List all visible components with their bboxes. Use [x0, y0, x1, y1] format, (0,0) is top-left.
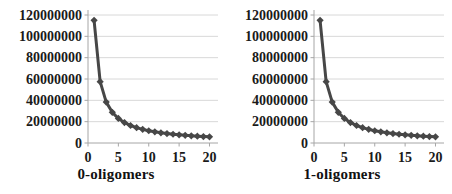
svg-text:100000000: 100000000 — [245, 29, 308, 44]
svg-text:20000000: 20000000 — [252, 114, 308, 129]
svg-text:0: 0 — [311, 150, 318, 165]
svg-text:80000000: 80000000 — [252, 50, 308, 65]
svg-text:20000000: 20000000 — [26, 114, 82, 129]
svg-text:10: 10 — [142, 150, 156, 165]
svg-text:20: 20 — [202, 150, 216, 165]
svg-text:0: 0 — [301, 136, 308, 151]
chart-0-axis-title: 0-oligomers — [10, 166, 222, 183]
chart-0-oligomers: 0200000004000000060000000800000001000000… — [0, 0, 226, 194]
svg-text:120000000: 120000000 — [19, 8, 82, 23]
svg-text:60000000: 60000000 — [26, 72, 82, 87]
svg-text:40000000: 40000000 — [26, 93, 82, 108]
svg-text:60000000: 60000000 — [252, 72, 308, 87]
svg-text:10: 10 — [368, 150, 382, 165]
svg-text:120000000: 120000000 — [245, 8, 308, 23]
chart-1-plot-area: 0200000004000000060000000800000001000000… — [226, 0, 452, 168]
svg-text:80000000: 80000000 — [26, 50, 82, 65]
figure: 0200000004000000060000000800000001000000… — [0, 0, 452, 194]
chart-0-plot-area: 0200000004000000060000000800000001000000… — [0, 0, 226, 168]
svg-text:15: 15 — [172, 150, 186, 165]
svg-text:5: 5 — [115, 150, 122, 165]
svg-text:20: 20 — [428, 150, 442, 165]
chart-1-oligomers: 0200000004000000060000000800000001000000… — [226, 0, 452, 194]
svg-text:15: 15 — [398, 150, 412, 165]
svg-text:0: 0 — [85, 150, 92, 165]
svg-text:100000000: 100000000 — [19, 29, 82, 44]
svg-text:0: 0 — [75, 136, 82, 151]
svg-text:40000000: 40000000 — [252, 93, 308, 108]
svg-text:5: 5 — [341, 150, 348, 165]
chart-1-axis-title: 1-oligomers — [236, 166, 448, 183]
